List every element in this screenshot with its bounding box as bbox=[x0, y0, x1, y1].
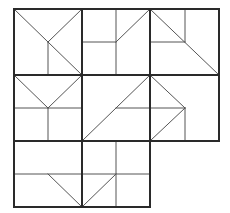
tangram-grid-diagram bbox=[0, 0, 230, 213]
background bbox=[0, 0, 230, 213]
